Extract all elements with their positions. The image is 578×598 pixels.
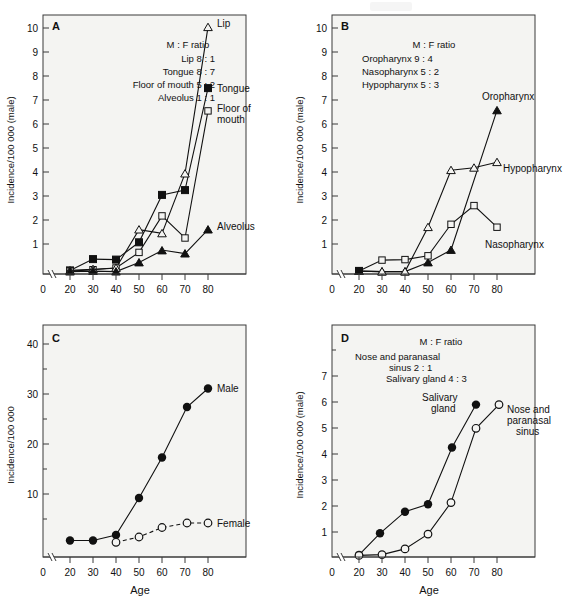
series-label-salivary-0: Salivary [422,392,458,403]
x-tick-d-20: 20 [353,567,365,578]
annotation-b-2: Hypopharynx 5 : 3 [362,79,439,90]
series-label-oropharynx: Oropharynx [482,91,534,102]
series-label-nose-0: Nose and [507,404,550,415]
series-label-nose-2: sinus [516,426,539,437]
x-tick-c-30: 30 [87,567,99,578]
x-tick-a-50: 50 [133,284,145,295]
y-tick-a-8: 8 [32,71,38,82]
annotation-title-d: M : F ratio [420,336,463,347]
y-tick-a-4: 4 [32,167,38,178]
annotation-a-0: Lip 8 : 1 [181,53,215,64]
y-tick-b-1: 1 [321,239,327,250]
x-tick-d-0: 0 [329,567,335,578]
y-tick-b-3: 3 [321,191,327,202]
series-label-hypopharynx: Hypopharynx [503,163,562,174]
y-tick-a-6: 6 [32,119,38,130]
y-tick-a-2: 2 [32,215,38,226]
panel-a: Incidence/100 000 (male) A 10 9 8 7 6 5 … [0,0,289,300]
x-tick-c-80: 80 [202,567,214,578]
y-ticklabels-b: 10 9 8 7 6 5 4 3 2 1 [316,23,328,250]
y-ticklabels-c: 40 30 20 10 [27,339,39,500]
panel-d-svg: Incidence/100 000 (male) D 7 6 5 4 3 2 1… [289,300,578,598]
y-tick-b-8: 8 [321,71,327,82]
x-axis-c: 0 20 30 40 50 60 70 80 Age [40,553,246,596]
series-label-lip: Lip [217,18,231,29]
series-label-nasopharynx: Nasopharynx [485,239,544,250]
x-tick-d-50: 50 [422,567,434,578]
x-tick-d-80: 80 [491,567,503,578]
panel-a-svg: Incidence/100 000 (male) A 10 9 8 7 6 5 … [0,0,289,300]
x-tick-c-0: 0 [40,567,46,578]
x-tick-b-30: 30 [376,284,388,295]
series-label-tongue: Tongue [217,83,250,94]
x-tick-d-40: 40 [399,567,411,578]
y-tick-d-6: 6 [321,397,327,408]
x-tick-b-60: 60 [445,284,457,295]
x-tick-d-30: 30 [376,567,388,578]
y-tick-d-1: 1 [321,527,327,538]
y-tick-d-4: 4 [321,449,327,460]
annotation-d-1: sinus 2 : 1 [389,362,432,373]
y-axis-label-c: Incidence/100 000 [5,406,16,484]
y-axis-label-d: Incidence/100 000 (male) [294,391,305,498]
plot-frame-c [43,325,246,557]
y-ticklabels-d: 7 6 5 4 3 2 1 [321,371,327,538]
series-label-alveolus: Alveolus [217,221,255,232]
series-label-salivary-1: gland [431,403,455,414]
x-axis-title-d: Age [419,584,439,596]
annotation-title-b: M : F ratio [413,39,456,50]
x-tick-b-80: 80 [491,284,503,295]
annotation-title-a: M : F ratio [167,39,210,50]
x-tick-a-70: 70 [179,284,191,295]
x-tick-c-60: 60 [156,567,168,578]
annotation-b-0: Oropharynx 9 : 4 [362,53,433,64]
x-axis-b: 0 20 30 40 50 60 70 80 [329,270,535,295]
x-tick-a-0: 0 [40,284,46,295]
panel-letter-c: C [52,332,60,344]
x-tick-a-40: 40 [110,284,122,295]
y-tick-d-7: 7 [321,371,327,382]
y-tick-b-4: 4 [321,167,327,178]
y-tick-a-5: 5 [32,143,38,154]
y-tick-a-7: 7 [32,95,38,106]
panel-c-svg: Incidence/100 000 C 40 30 20 10 [0,300,289,598]
x-tick-a-80: 80 [202,284,214,295]
x-ticklabels-a: 0 20 30 40 50 60 70 80 [40,284,214,295]
y-tick-c-40: 40 [27,339,39,350]
x-tick-c-20: 20 [64,567,76,578]
annotation-d-0: Nose and paranasal [355,351,440,362]
y-ticklabels-a: 10 9 8 7 6 5 4 3 2 1 [27,23,39,250]
plot-frame-a [43,15,246,274]
x-tick-b-0: 0 [329,284,335,295]
series-label-floor-0: Floor of [217,103,251,114]
y-tick-a-3: 3 [32,191,38,202]
marker-b-origin-square [356,267,363,274]
x-ticklabels-d: 0 20 30 40 50 60 70 80 [329,567,503,578]
y-axis-label-b: Incidence/100 000 (male) [294,96,305,203]
x-tick-b-40: 40 [399,284,411,295]
annotation-b-1: Nasopharynx 5 : 2 [362,66,439,77]
y-tick-c-20: 20 [27,439,39,450]
y-tick-c-30: 30 [27,389,39,400]
panel-c: Incidence/100 000 C 40 30 20 10 [0,300,289,598]
y-tick-b-7: 7 [321,95,327,106]
series-label-female: Female [217,518,251,529]
y-tick-b-10: 10 [316,23,328,34]
panel-d: Incidence/100 000 (male) D 7 6 5 4 3 2 1… [289,300,578,598]
x-tick-c-50: 50 [133,567,145,578]
panel-letter-d: D [341,332,349,344]
x-axis-title-c: Age [130,584,150,596]
y-tick-d-3: 3 [321,475,327,486]
y-tick-b-6: 6 [321,119,327,130]
x-ticklabels-b: 0 20 30 40 50 60 70 80 [329,284,503,295]
x-tick-a-60: 60 [156,284,168,295]
series-label-male: Male [217,383,239,394]
x-tick-b-20: 20 [353,284,365,295]
annotation-d-2: Salivary gland 4 : 3 [386,373,467,384]
y-tick-b-2: 2 [321,215,327,226]
annotation-a-2: Floor of mouth 5 : 2 [133,79,215,90]
series-label-floor-1: mouth [217,114,245,125]
y-tick-d-2: 2 [321,501,327,512]
panel-b-svg: Incidence/100 000 (male) B 10 9 8 7 6 5 … [289,0,578,300]
y-tick-a-10: 10 [27,23,39,34]
